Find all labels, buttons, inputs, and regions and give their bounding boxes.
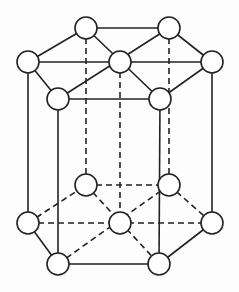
atom-bottom-front-right <box>148 253 170 275</box>
atom-top-left <box>17 51 39 73</box>
atom-top-back-left <box>75 17 97 39</box>
atom-top-right <box>201 51 223 73</box>
atom-bottom-right <box>201 212 223 234</box>
atom-top-front-left <box>47 88 69 110</box>
atom-bottom-center <box>109 212 131 234</box>
atom-bottom-back-right <box>158 174 180 196</box>
atom-top-center <box>109 51 131 73</box>
hcp-lattice-diagram <box>0 0 239 292</box>
atom-top-back-right <box>158 17 180 39</box>
atom-top-front-right <box>149 88 171 110</box>
atom-bottom-back-left <box>75 174 97 196</box>
atom-bottom-front-left <box>47 253 69 275</box>
atom-bottom-left <box>17 212 39 234</box>
